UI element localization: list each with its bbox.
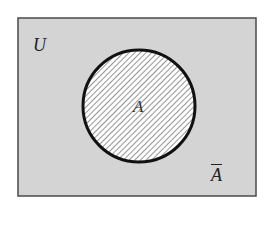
set-a-label: A	[133, 98, 143, 115]
complement-label: A	[211, 166, 222, 184]
universe-label: U	[33, 36, 46, 54]
